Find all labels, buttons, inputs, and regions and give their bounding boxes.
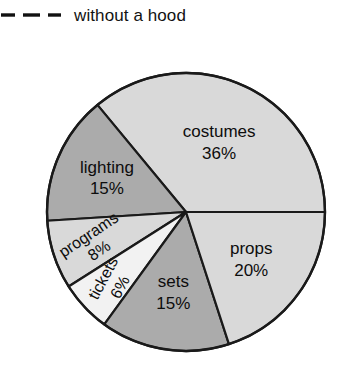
slice-name-lighting: lighting	[80, 158, 134, 177]
slice-name-props: props	[230, 239, 273, 258]
slice-value-lighting: 15%	[90, 179, 124, 198]
slice-name-sets: sets	[158, 272, 189, 291]
slice-value-costumes: 36%	[202, 144, 236, 163]
slice-value-props: 20%	[234, 261, 268, 280]
pie-chart: costumes36%lighting15%programs8%tickets6…	[0, 0, 350, 380]
chart-canvas: without a hood costumes36%lighting15%pro…	[0, 0, 350, 380]
slice-name-costumes: costumes	[183, 122, 256, 141]
slice-value-sets: 15%	[156, 294, 190, 313]
